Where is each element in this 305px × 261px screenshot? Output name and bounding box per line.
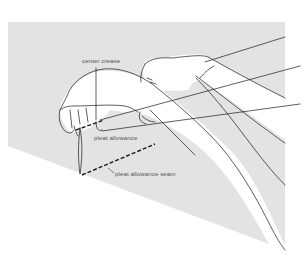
- fabric-panel: [8, 22, 285, 250]
- label-pleat-allowance: pleat allowance: [94, 135, 137, 141]
- illustration-canvas: [0, 0, 305, 261]
- label-center-crease: center crease: [82, 58, 120, 64]
- pleat-folding-illustration: center crease pleat allowance pleat allo…: [0, 0, 305, 261]
- label-pleat-allowance-seam: pleat allowance seam: [115, 171, 176, 177]
